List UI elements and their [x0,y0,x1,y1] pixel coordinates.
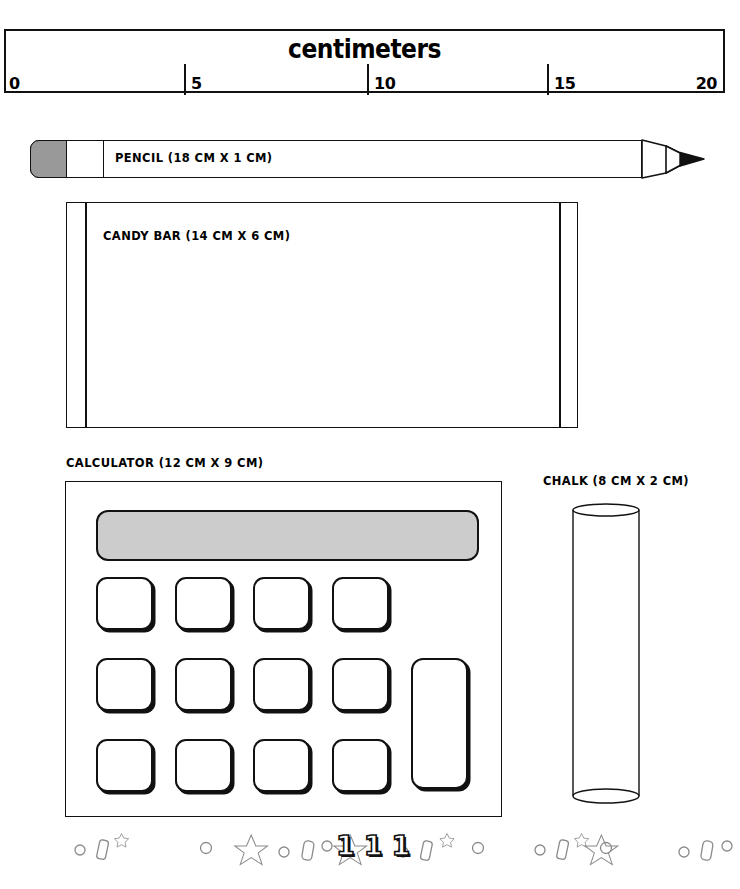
calculator-label: CALCULATOR (12 CM X 9 CM) [66,456,263,470]
pencil-object: PENCIL (18 CM X 1 CM) [30,136,690,186]
calculator-display [96,510,479,561]
worksheet-page: centimeters 0 5 10 15 20 PENCIL (18 CM X… [0,0,740,889]
calculator-enter-key[interactable] [411,658,468,789]
calculator-key[interactable] [253,739,310,792]
calculator-object [65,481,502,817]
candy-bar-right-crease [559,203,561,427]
ruler-label-10: 10 [374,74,395,93]
calculator-key[interactable] [96,739,153,792]
calculator-key[interactable] [332,658,389,711]
decorative-digits: 111 [336,830,419,861]
candy-bar-label: CANDY BAR (14 CM X 6 CM) [103,229,290,243]
calculator-key[interactable] [175,658,232,711]
pencil-eraser [30,140,67,178]
ruler-label-0: 0 [9,74,20,93]
pencil-ferrule [67,140,104,178]
calculator-key[interactable] [96,658,153,711]
calculator-keypad [96,577,486,797]
ruler-tick-10 [367,64,369,95]
calculator-key[interactable] [253,577,310,630]
ruler-label-15: 15 [554,74,575,93]
candy-bar-object: CANDY BAR (14 CM X 6 CM) [66,202,578,428]
calculator-key[interactable] [175,739,232,792]
chalk-object [565,500,655,810]
ruler-title: centimeters [6,34,723,64]
ruler-tick-15 [547,64,549,95]
calculator-key[interactable] [96,577,153,630]
calculator-key[interactable] [253,658,310,711]
candy-bar-left-crease [85,203,87,427]
pencil-tip-icon [640,136,720,186]
ruler-label-5: 5 [191,74,202,93]
calculator-key[interactable] [175,577,232,630]
ruler: centimeters 0 5 10 15 20 [4,29,725,93]
calculator-key[interactable] [332,577,389,630]
decorative-border: 111 [0,828,740,874]
chalk-label: CHALK (8 CM X 2 CM) [543,474,689,488]
ruler-tick-5 [184,64,186,95]
ruler-label-20: 20 [696,74,717,93]
calculator-key[interactable] [332,739,389,792]
pencil-label: PENCIL (18 CM X 1 CM) [115,151,273,165]
